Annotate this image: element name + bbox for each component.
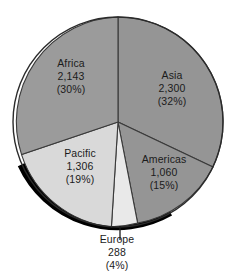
pie-label-asia-name: Asia [135,69,209,82]
pie-label-americas-value: 1,060 [124,166,204,179]
pie-label-asia: Asia 2,300 (32%) [135,69,209,109]
pie-label-americas: Americas 1,060 (15%) [124,153,204,193]
pie-label-pacific-name: Pacific [43,147,117,160]
pie-chart: Africa 2,143 (30%) Asia 2,300 (32%) Paci… [0,0,234,277]
pie-label-pacific: Pacific 1,306 (19%) [43,147,117,187]
pie-label-europe-value: 288 [78,246,156,259]
pie-label-asia-percent: (32%) [135,95,209,108]
pie-label-africa: Africa 2,143 (30%) [34,57,108,97]
pie-label-americas-name: Americas [124,153,204,166]
pie-label-europe-percent: (4%) [78,259,156,272]
pie-label-americas-percent: (15%) [124,179,204,192]
pie-label-pacific-value: 1,306 [43,160,117,173]
pie-label-pacific-percent: (19%) [43,173,117,186]
pie-label-africa-value: 2,143 [34,70,108,83]
pie-label-asia-value: 2,300 [135,82,209,95]
pie-label-europe-name: Europe [78,233,156,246]
pie-label-europe: Europe 288 (4%) [78,233,156,273]
pie-label-africa-percent: (30%) [34,83,108,96]
pie-label-africa-name: Africa [34,57,108,70]
